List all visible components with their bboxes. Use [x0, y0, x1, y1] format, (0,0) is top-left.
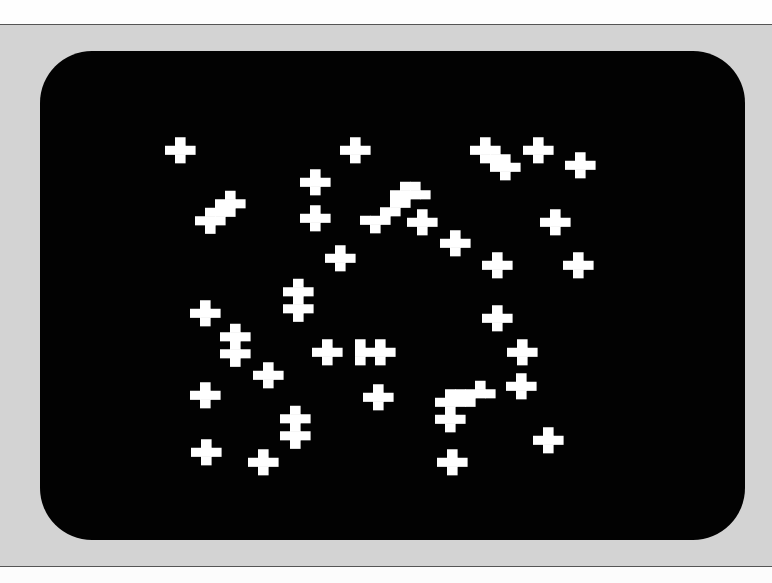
cell-cluster	[220, 324, 251, 367]
cell-cluster	[300, 205, 331, 231]
cell-cluster	[253, 362, 284, 388]
cell-pattern	[40, 51, 745, 540]
crt-screen	[40, 51, 745, 540]
cell-cluster	[533, 427, 564, 453]
cell-cluster	[355, 339, 396, 365]
cell-cluster	[470, 137, 521, 180]
cell-cluster	[340, 137, 371, 163]
cell-cluster	[300, 169, 331, 195]
cell-cluster	[165, 137, 196, 163]
cell-cluster	[482, 252, 513, 278]
cell-cluster	[280, 406, 311, 449]
cell-cluster	[190, 382, 221, 408]
cell-cluster	[540, 209, 571, 235]
cell-cluster	[248, 449, 279, 475]
cell-cluster	[563, 252, 594, 278]
cell-cluster	[283, 279, 314, 322]
cell-cluster	[435, 381, 496, 433]
cell-cluster	[190, 300, 221, 326]
cell-cluster	[565, 152, 596, 178]
paper-margin-top	[0, 0, 772, 24]
cell-cluster	[325, 245, 356, 271]
cell-cluster	[363, 384, 394, 410]
cell-cluster	[440, 230, 471, 256]
cell-cluster	[437, 449, 468, 475]
cell-cluster	[523, 137, 554, 163]
cell-cluster	[507, 339, 538, 365]
paper-margin-bottom	[0, 567, 772, 583]
cell-cluster	[407, 209, 438, 235]
cell-cluster	[312, 339, 343, 365]
cell-cluster	[195, 191, 246, 234]
cell-cluster	[482, 305, 513, 331]
cell-cluster	[191, 439, 222, 465]
cell-cluster	[506, 373, 537, 399]
